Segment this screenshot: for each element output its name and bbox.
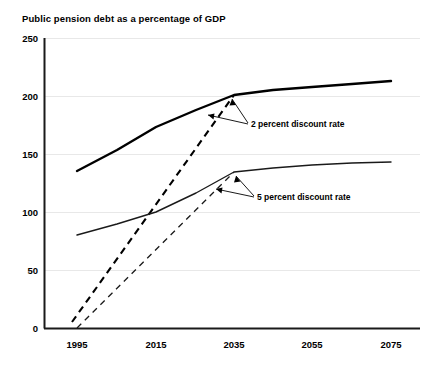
chart-container: Public pension debt as a percentage of G…: [0, 0, 430, 365]
leader-arrowhead-2pct-b: [208, 114, 215, 120]
series-line-5pct-accrued: [77, 172, 234, 328]
annotation-2-percent-discount-rate: 2 percent discount rate: [251, 119, 345, 129]
leader-line-5pct-a: [236, 176, 254, 196]
annotation-5-percent-discount-rate: 5 percent discount rate: [257, 192, 351, 202]
plot-area: [0, 0, 430, 365]
leader-arrowhead-5pct-b: [216, 188, 223, 194]
gridlines: [44, 39, 420, 271]
